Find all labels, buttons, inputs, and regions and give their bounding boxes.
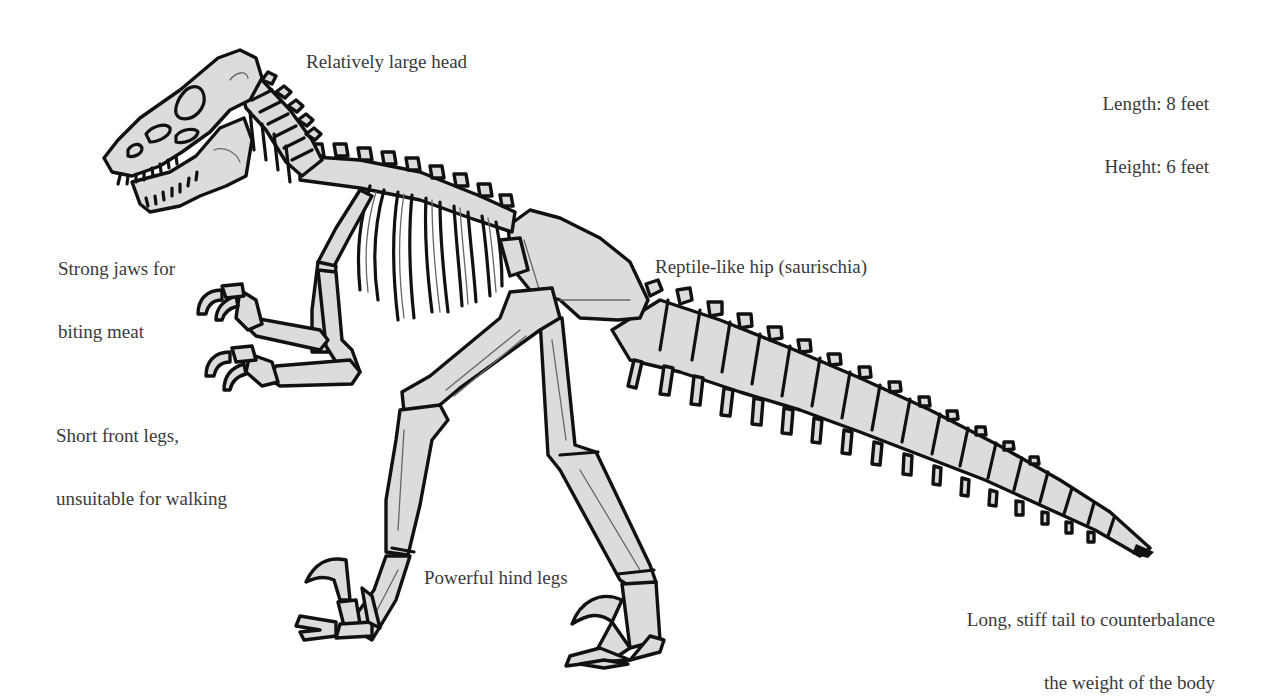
label-tail: Long, stiff tail to counterbalance the w… (967, 567, 1215, 697)
hind-leg-right (540, 318, 664, 668)
tail-vertebrae (612, 280, 1154, 558)
skull (104, 50, 262, 212)
label-jaws-line2: biting meat (58, 321, 175, 342)
label-head: Relatively large head (306, 51, 467, 72)
label-hind-legs: Powerful hind legs (424, 567, 568, 588)
front-legs (198, 262, 360, 390)
hip-bone (402, 210, 648, 415)
length-value: Length: 8 feet (1102, 93, 1209, 114)
height-value: Height: 6 feet (1102, 156, 1209, 177)
label-jaws-line1: Strong jaws for (58, 258, 175, 279)
label-hip: Reptile-like hip (saurischia) (655, 256, 867, 277)
label-tail-line1: Long, stiff tail to counterbalance (967, 609, 1215, 630)
label-tail-line2: the weight of the body (967, 672, 1215, 693)
dimensions-block: Length: 8 feet Height: 6 feet (1102, 51, 1209, 219)
label-front-legs-line1: Short front legs, (56, 425, 227, 446)
hind-leg-left (296, 405, 448, 640)
label-front-legs: Short front legs, unsuitable for walking (56, 383, 227, 551)
label-front-legs-line2: unsuitable for walking (56, 488, 227, 509)
label-jaws: Strong jaws for biting meat (58, 216, 175, 384)
